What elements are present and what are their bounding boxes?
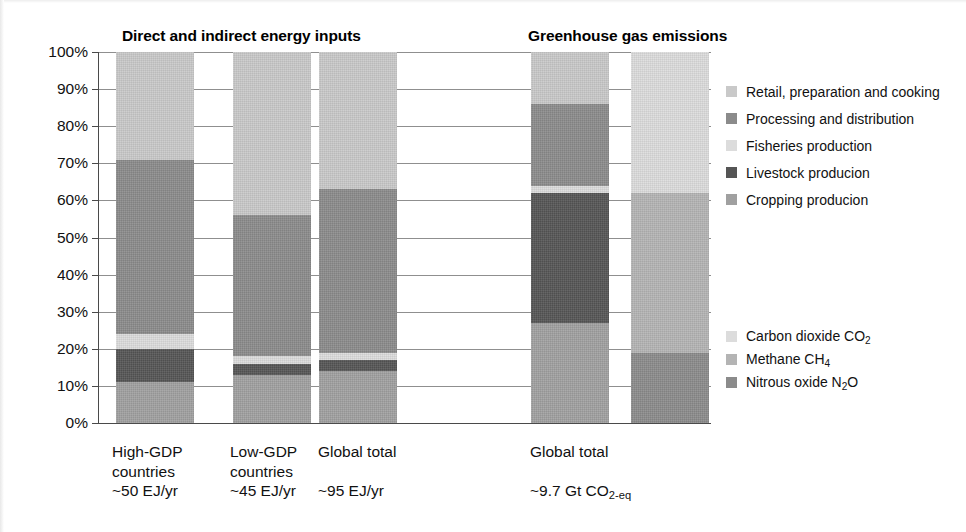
- segment-livestock[interactable]: [116, 349, 194, 382]
- y-tick-label-50: 50%: [57, 229, 88, 247]
- panel-title-energy: Direct and indirect energy inputs: [122, 27, 361, 45]
- segment-n2o[interactable]: [631, 353, 709, 423]
- y-tick-50: [92, 238, 99, 239]
- x-label-line1: High-GDP: [112, 442, 183, 462]
- segment-cropping[interactable]: [319, 371, 397, 423]
- segment-livestock[interactable]: [319, 360, 397, 371]
- gas-legend-item-2[interactable]: Methane CH4: [726, 348, 871, 371]
- segment-ch4[interactable]: [631, 193, 709, 353]
- x-label-line3: ~95 EJ/yr: [318, 481, 396, 501]
- legend-label: Cropping producion: [746, 192, 868, 208]
- chart-canvas: Direct and indirect energy inputs Greenh…: [0, 0, 966, 532]
- gridline-0: [99, 423, 711, 424]
- plot-area: 100%90%80%70%60%50%40%30%20%10%0%: [98, 52, 711, 423]
- y-tick-100: [92, 52, 99, 53]
- legend-label: Fisheries production: [746, 138, 872, 154]
- bar-ghg-gas[interactable]: [631, 52, 709, 423]
- scan-edge-left: [0, 0, 4, 532]
- y-tick-label-10: 10%: [57, 377, 88, 395]
- y-tick-label-0: 0%: [66, 414, 88, 432]
- segment-livestock[interactable]: [233, 364, 311, 375]
- legend-label: Retail, preparation and cooking: [746, 84, 940, 100]
- segment-cropping[interactable]: [116, 382, 194, 423]
- scan-edge-top: [0, 0, 966, 3]
- x-label-line3: ~9.7 Gt CO2-eq: [530, 481, 631, 505]
- segment-fisheries[interactable]: [531, 186, 609, 193]
- x-axis-label-2: Low-GDPcountries~45 EJ/yr: [230, 442, 297, 501]
- x-axis-label-1: High-GDPcountries~50 EJ/yr: [112, 442, 183, 501]
- segment-co2[interactable]: [631, 52, 709, 193]
- gas-legend-item-1[interactable]: Carbon dioxide CO2: [726, 325, 871, 348]
- y-tick-90: [92, 89, 99, 90]
- stage-legend-item-2[interactable]: Processing and distribution: [726, 105, 940, 132]
- y-tick-label-40: 40%: [57, 266, 88, 284]
- segment-fisheries[interactable]: [116, 334, 194, 349]
- legend-swatch-icon: [726, 354, 737, 365]
- legend-label: Methane CH4: [746, 351, 830, 369]
- bar-ghg-stage[interactable]: [531, 52, 609, 423]
- y-tick-10: [92, 386, 99, 387]
- segment-cropping[interactable]: [531, 323, 609, 423]
- legend-swatch-icon: [726, 113, 737, 124]
- bar-low-gdp[interactable]: [233, 52, 311, 423]
- legend-stage: Retail, preparation and cookingProcessin…: [726, 78, 940, 213]
- segment-processing[interactable]: [319, 189, 397, 352]
- segment-processing[interactable]: [233, 215, 311, 356]
- bar-high-gdp[interactable]: [116, 52, 194, 423]
- y-tick-label-80: 80%: [57, 117, 88, 135]
- x-label-line3: ~50 EJ/yr: [112, 481, 183, 501]
- gas-legend-item-3[interactable]: Nitrous oxide N2O: [726, 371, 871, 394]
- y-tick-label-60: 60%: [57, 191, 88, 209]
- legend-gas: Carbon dioxide CO2Methane CH4Nitrous oxi…: [726, 325, 871, 394]
- segment-processing[interactable]: [531, 104, 609, 186]
- y-tick-label-90: 90%: [57, 80, 88, 98]
- panel-title-ghg: Greenhouse gas emissions: [528, 27, 727, 45]
- stage-legend-item-4[interactable]: Livestock producion: [726, 159, 940, 186]
- segment-processing[interactable]: [116, 160, 194, 334]
- y-tick-30: [92, 312, 99, 313]
- y-tick-20: [92, 349, 99, 350]
- x-label-line2: [530, 462, 631, 482]
- segment-cropping[interactable]: [233, 375, 311, 423]
- x-label-line2: countries: [112, 462, 183, 482]
- legend-swatch-icon: [726, 86, 737, 97]
- legend-label: Nitrous oxide N2O: [746, 374, 858, 392]
- y-tick-40: [92, 275, 99, 276]
- x-label-line1: Low-GDP: [230, 442, 297, 462]
- y-tick-label-70: 70%: [57, 154, 88, 172]
- legend-swatch-icon: [726, 194, 737, 205]
- x-label-line2: countries: [230, 462, 297, 482]
- legend-label: Processing and distribution: [746, 111, 914, 127]
- y-tick-70: [92, 163, 99, 164]
- x-label-line1: Global total: [318, 442, 396, 462]
- segment-fisheries[interactable]: [319, 353, 397, 360]
- stage-legend-item-5[interactable]: Cropping producion: [726, 186, 940, 213]
- x-axis-label-4: Global total ~9.7 Gt CO2-eq: [530, 442, 631, 505]
- bar-global-energy[interactable]: [319, 52, 397, 423]
- segment-retail[interactable]: [233, 52, 311, 215]
- x-label-line3: ~45 EJ/yr: [230, 481, 297, 501]
- legend-label: Carbon dioxide CO2: [746, 328, 871, 346]
- y-tick-label-30: 30%: [57, 303, 88, 321]
- stage-legend-item-1[interactable]: Retail, preparation and cooking: [726, 78, 940, 105]
- y-tick-0: [92, 423, 99, 424]
- y-tick-60: [92, 200, 99, 201]
- legend-swatch-icon: [726, 377, 737, 388]
- segment-retail[interactable]: [116, 52, 194, 160]
- y-tick-80: [92, 126, 99, 127]
- legend-swatch-icon: [726, 140, 737, 151]
- legend-label: Livestock producion: [746, 165, 870, 181]
- x-axis-label-3: Global total ~95 EJ/yr: [318, 442, 396, 501]
- segment-fisheries[interactable]: [233, 356, 311, 363]
- segment-retail[interactable]: [319, 52, 397, 189]
- x-label-line2: [318, 462, 396, 482]
- legend-swatch-icon: [726, 167, 737, 178]
- x-label-line1: Global total: [530, 442, 631, 462]
- y-tick-label-100: 100%: [48, 43, 88, 61]
- segment-livestock[interactable]: [531, 193, 609, 323]
- y-tick-label-20: 20%: [57, 340, 88, 358]
- legend-swatch-icon: [726, 331, 737, 342]
- stage-legend-item-3[interactable]: Fisheries production: [726, 132, 940, 159]
- segment-retail[interactable]: [531, 52, 609, 104]
